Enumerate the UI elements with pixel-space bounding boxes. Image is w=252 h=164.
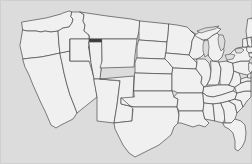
state-NH[interactable] <box>247 37 252 48</box>
us-map-svg <box>1 1 252 164</box>
state-ME[interactable] <box>246 18 252 38</box>
state-FL[interactable] <box>223 119 246 151</box>
us-state-locator-map <box>0 0 252 164</box>
state-SD[interactable] <box>137 40 167 59</box>
state-ND[interactable] <box>139 21 169 42</box>
lake-michigan <box>203 40 209 57</box>
state-AR[interactable] <box>174 93 204 111</box>
state-KS[interactable] <box>134 73 172 91</box>
state-NJ[interactable] <box>249 63 252 73</box>
state-MT[interactable] <box>80 12 140 39</box>
state-MA[interactable] <box>247 47 252 53</box>
state-CO[interactable] <box>100 39 137 68</box>
